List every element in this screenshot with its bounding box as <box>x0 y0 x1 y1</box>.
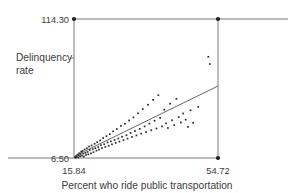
data-point <box>173 124 175 126</box>
data-point <box>190 109 192 111</box>
data-point <box>197 106 199 108</box>
data-point <box>136 135 138 137</box>
data-point <box>85 154 87 156</box>
data-point <box>91 145 93 147</box>
data-point <box>92 148 94 150</box>
y-axis-title-line2: rate <box>16 65 34 76</box>
y-axis-title-line1: Delinquency <box>16 52 73 63</box>
data-point <box>109 133 111 135</box>
data-points <box>74 56 211 159</box>
data-point <box>81 155 83 157</box>
data-point <box>119 141 121 143</box>
data-point <box>133 117 135 119</box>
data-point <box>90 153 92 155</box>
data-point <box>176 98 178 100</box>
y-axis-min-label: 6.50 <box>51 154 69 164</box>
y-axis-max-label: 114.30 <box>41 15 69 25</box>
data-point <box>84 152 86 154</box>
data-point <box>121 136 123 138</box>
data-point <box>114 139 116 141</box>
data-point <box>171 119 173 121</box>
data-point <box>83 156 85 158</box>
data-point <box>82 153 84 155</box>
x-axis-min-label: 15.84 <box>62 166 85 176</box>
data-point <box>108 145 110 147</box>
data-point <box>150 129 152 131</box>
data-point <box>161 126 163 128</box>
data-point <box>80 153 82 155</box>
data-point <box>128 120 130 122</box>
data-point <box>144 126 146 128</box>
data-point <box>182 113 184 115</box>
data-point <box>124 123 126 125</box>
data-point <box>180 122 182 124</box>
data-point <box>104 146 106 148</box>
data-point <box>87 151 89 153</box>
x-axis-title: Percent who ride public transportation <box>61 180 232 191</box>
regression-line <box>76 86 218 156</box>
data-point <box>94 143 96 145</box>
data-point <box>79 155 81 157</box>
axis-frame <box>8 17 288 160</box>
data-point <box>110 141 112 143</box>
data-point <box>94 147 96 149</box>
data-point <box>117 138 119 140</box>
data-point <box>97 146 99 148</box>
data-point <box>106 135 108 137</box>
data-point <box>123 139 125 141</box>
data-point <box>157 94 159 96</box>
data-point <box>76 156 78 158</box>
data-point <box>120 125 122 127</box>
data-point <box>86 147 88 149</box>
data-point <box>185 119 187 121</box>
corner-dot-bottom-right <box>216 156 220 160</box>
data-point <box>112 130 114 132</box>
data-point <box>139 128 141 130</box>
data-point <box>140 133 142 135</box>
data-point <box>87 154 89 156</box>
data-point <box>159 117 161 119</box>
data-point <box>149 123 151 125</box>
data-point <box>192 122 194 124</box>
scatter-chart: 114.30 6.50 Delinquency rate 15.84 54.72… <box>0 0 294 193</box>
data-point <box>145 131 147 133</box>
data-point <box>163 109 165 111</box>
data-point <box>102 137 104 139</box>
x-axis-max-label: 54.72 <box>206 166 229 176</box>
data-point <box>84 149 86 151</box>
data-point <box>169 103 171 105</box>
data-point <box>93 151 95 153</box>
data-point <box>99 140 101 142</box>
data-point <box>107 142 109 144</box>
data-point <box>103 143 105 145</box>
data-point <box>137 112 139 114</box>
data-point <box>134 130 136 132</box>
data-point <box>96 150 98 152</box>
data-point <box>131 136 133 138</box>
data-point <box>154 120 156 122</box>
data-point <box>209 63 211 65</box>
data-point <box>178 116 180 118</box>
data-point <box>152 99 154 101</box>
data-point <box>126 134 128 136</box>
data-point <box>147 104 149 106</box>
data-point <box>167 127 169 129</box>
data-point <box>142 108 144 110</box>
data-point <box>89 149 91 151</box>
corner-dot-top-left <box>72 17 76 21</box>
data-point <box>111 143 113 145</box>
data-point <box>96 141 98 143</box>
data-point <box>130 132 132 134</box>
data-point <box>115 142 117 144</box>
data-point <box>88 146 90 148</box>
data-point <box>78 154 80 156</box>
data-point <box>101 147 103 149</box>
data-point <box>82 150 84 152</box>
data-point <box>156 128 158 130</box>
data-point <box>127 138 129 140</box>
corner-dot-top-right <box>216 17 220 21</box>
data-point <box>165 122 167 124</box>
data-point <box>187 126 189 128</box>
data-point <box>77 157 79 159</box>
data-point <box>100 144 102 146</box>
